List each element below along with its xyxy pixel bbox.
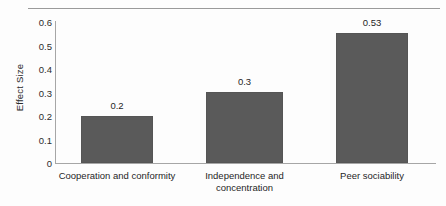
x-category-label-2: Peer sociability <box>322 170 422 182</box>
bar-value-label-2: 0.53 <box>336 17 408 28</box>
bar-chart-figure: Effect Size 0 0.1 0.2 0.3 0.4 0.5 0.6 0.… <box>0 0 446 206</box>
x-category-label-2-line1: Peer sociability <box>340 170 404 181</box>
plot-area: 0 0.1 0.2 0.3 0.4 0.5 0.6 0.2 Cooperatio… <box>0 0 446 206</box>
y-axis-line <box>55 21 56 163</box>
y-tick-label-2: 0.2 <box>4 111 52 122</box>
x-axis-line <box>55 163 436 164</box>
bar-value-label-0: 0.2 <box>81 100 153 111</box>
bar-peer-sociability[interactable] <box>336 33 408 163</box>
x-category-label-0: Cooperation and conformity <box>57 170 177 182</box>
y-tick-label-1: 0.1 <box>4 134 52 145</box>
bar-cooperation-and-conformity[interactable] <box>81 116 153 163</box>
x-category-label-0-line1: Cooperation and conformity <box>59 170 176 181</box>
y-tick-label-6: 0.6 <box>4 17 52 28</box>
y-tick-label-0: 0 <box>4 158 52 169</box>
x-category-label-1-line1: Independence and <box>194 170 295 182</box>
y-tick-label-3: 0.3 <box>4 87 52 98</box>
bar-value-label-1: 0.3 <box>206 76 283 87</box>
bar-independence-and-concentration[interactable] <box>206 92 283 163</box>
x-category-label-1: Independence and concentration <box>194 170 295 194</box>
y-tick-label-4: 0.4 <box>4 64 52 75</box>
x-category-label-1-line2: concentration <box>194 182 295 194</box>
y-tick-label-5: 0.5 <box>4 40 52 51</box>
